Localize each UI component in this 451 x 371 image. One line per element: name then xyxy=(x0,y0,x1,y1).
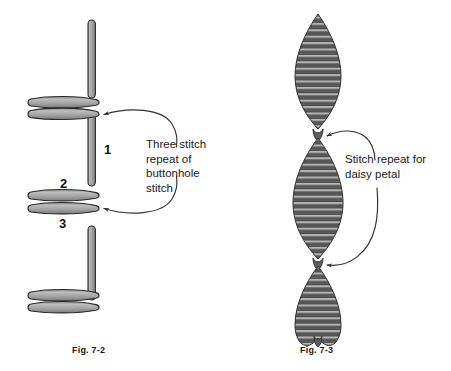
horizontal-thread-2b xyxy=(28,203,99,214)
horizontal-thread-1b xyxy=(28,108,99,119)
horizontal-thread-1a xyxy=(28,97,99,108)
vertical-thread-3 xyxy=(88,226,95,300)
vertical-thread-1 xyxy=(88,20,95,98)
vertical-thread-group xyxy=(88,20,95,300)
petal-body-3 xyxy=(295,266,341,346)
horizontal-thread-2a xyxy=(28,190,99,201)
horizontal-thread-pair-bottom xyxy=(28,290,99,313)
step-label-1: 1 xyxy=(104,142,111,157)
figure-caption-right: Fig. 7-3 xyxy=(300,345,333,355)
petal-body-2 xyxy=(293,138,343,259)
petal-body-1 xyxy=(295,14,341,129)
daisy-petal-3 xyxy=(116,266,341,347)
figure-caption-left: Fig. 7-2 xyxy=(72,345,105,355)
step-label-3: 3 xyxy=(59,216,66,231)
horizontal-thread-pair-middle xyxy=(28,190,99,214)
diagram-canvas xyxy=(0,0,451,371)
annotation-buttonhole: Three stitch repeat of buttonhole stitch xyxy=(146,137,206,195)
horizontal-thread-3b xyxy=(28,302,99,313)
step-label-2: 2 xyxy=(60,176,67,191)
daisy-petal-2 xyxy=(293,138,343,259)
vertical-thread-2 xyxy=(88,112,95,186)
annotation-daisy-petal: Stitch repeat for daisy petal xyxy=(345,152,426,181)
horizontal-thread-pair-top xyxy=(28,97,99,120)
horizontal-thread-3a xyxy=(28,290,99,301)
daisy-petal-1 xyxy=(295,14,341,129)
